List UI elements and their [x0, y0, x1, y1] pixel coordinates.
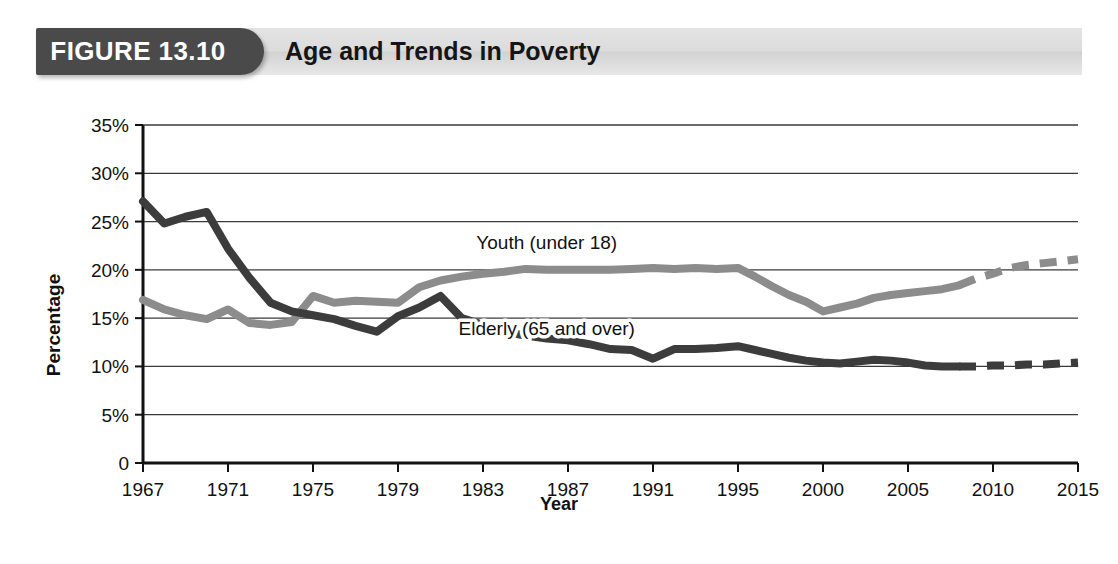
line-chart-plot: 05%10%15%20%25%30%35%1967197119751979198…	[0, 82, 1118, 564]
y-tick-label: 25%	[91, 212, 129, 233]
y-tick-label: 30%	[91, 163, 129, 184]
figure-container: FIGURE 13.10 Age and Trends in Poverty P…	[0, 0, 1118, 564]
y-tick-label: 15%	[91, 308, 129, 329]
y-tick-label: 5%	[102, 405, 130, 426]
series-annotation-label: Youth (under 18)	[476, 232, 617, 253]
y-tick-label: 35%	[91, 115, 129, 136]
series-annotation-label: Elderly (65 and over)	[459, 318, 635, 339]
figure-number-label: FIGURE 13.10	[36, 28, 240, 75]
y-axis-title: Percentage	[43, 245, 65, 405]
series-line-projection	[959, 259, 1078, 285]
y-tick-label: 20%	[91, 260, 129, 281]
figure-number-badge: FIGURE 13.10	[36, 28, 264, 75]
y-tick-label: 10%	[91, 356, 129, 377]
figure-title: Age and Trends in Poverty	[285, 28, 600, 75]
y-tick-label: 0	[118, 453, 129, 474]
chart-area: Percentage Year 05%10%15%20%25%30%35%196…	[0, 82, 1118, 564]
x-axis-title: Year	[0, 494, 1118, 515]
series-line-solid	[143, 201, 959, 366]
